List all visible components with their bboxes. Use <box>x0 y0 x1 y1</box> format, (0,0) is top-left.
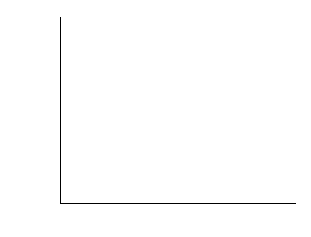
x-axis-line <box>60 203 296 204</box>
y-axis-line <box>60 17 61 203</box>
scatter-chart-figure <box>0 0 311 237</box>
plot-area <box>60 17 296 203</box>
